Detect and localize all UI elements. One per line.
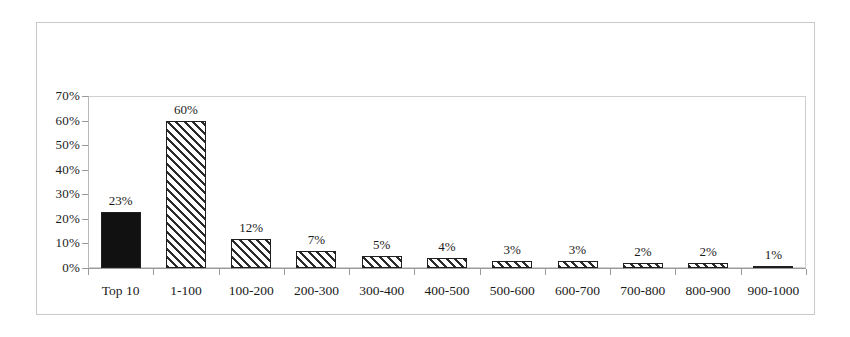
bar-value-label: 1% [765, 248, 782, 261]
bar-slot: 23% [88, 96, 153, 268]
y-axis-tick-label: 0% [30, 261, 80, 274]
bar-slot: 2% [610, 96, 675, 268]
chart-figure: 0%10%20%30%40%50%60%70% 23%60%12%7%5%4%3… [0, 0, 850, 337]
x-axis-tick [349, 269, 350, 275]
x-axis-tick [153, 269, 154, 275]
y-axis-tick-label-text: 0% [36, 261, 80, 274]
bar[interactable] [296, 251, 336, 268]
x-axis-tick [545, 269, 546, 275]
bar-slot: 3% [480, 96, 545, 268]
bar-value-label: 7% [308, 233, 325, 246]
bar[interactable] [166, 121, 206, 268]
x-axis-tick [88, 269, 89, 275]
bar-slot: 12% [219, 96, 284, 268]
bar[interactable] [492, 261, 532, 268]
bar-slot: 4% [414, 96, 479, 268]
bar-value-label: 5% [373, 238, 390, 251]
bar-slot: 7% [284, 96, 349, 268]
bar-value-label: 2% [699, 245, 716, 258]
x-axis-tick [806, 269, 807, 275]
bar-value-label: 3% [504, 243, 521, 256]
x-axis-category-label: 300-400 [349, 284, 414, 298]
bar-value-label: 3% [569, 243, 586, 256]
y-axis-tick-label-text: 70% [36, 89, 80, 102]
x-axis-category-label: 400-500 [414, 284, 479, 298]
x-axis-tick [480, 269, 481, 275]
bar[interactable] [753, 266, 793, 268]
y-axis-tick-label: 20% [30, 212, 80, 225]
x-axis-tick [675, 269, 676, 275]
bar[interactable] [362, 256, 402, 268]
y-axis-tick-label: 40% [30, 163, 80, 176]
bar-value-label: 2% [634, 245, 651, 258]
bar[interactable] [688, 263, 728, 268]
y-axis-tick-label-text: 60% [36, 114, 80, 127]
bar-value-label: 60% [174, 103, 198, 116]
bar-value-label: 23% [109, 194, 133, 207]
bar[interactable] [101, 212, 141, 269]
y-axis-tick-label: 70% [30, 89, 80, 102]
bar-value-label: 4% [438, 240, 455, 253]
bar-slot: 60% [153, 96, 218, 268]
y-axis-tick-label-text: 30% [36, 187, 80, 200]
x-axis-category-label: Top 10 [88, 284, 153, 298]
bar-slot: 2% [675, 96, 740, 268]
y-axis-tick-label-text: 20% [36, 212, 80, 225]
x-axis-category-label: 600-700 [545, 284, 610, 298]
y-axis-tick-label: 30% [30, 187, 80, 200]
bars-layer: 23%60%12%7%5%4%3%3%2%2%1% [88, 96, 806, 268]
x-axis-tick [284, 269, 285, 275]
y-axis-tick-label-text: 50% [36, 138, 80, 151]
x-axis-category-label: 800-900 [675, 284, 740, 298]
bar[interactable] [623, 263, 663, 268]
x-axis-category-label: 700-800 [610, 284, 675, 298]
x-axis-tick [219, 269, 220, 275]
x-axis-tick [414, 269, 415, 275]
bar-value-label: 12% [239, 221, 263, 234]
y-axis-tick-label-text: 40% [36, 163, 80, 176]
x-axis-category-label: 900-1000 [741, 284, 806, 298]
y-axis-tick-label: 60% [30, 114, 80, 127]
bar[interactable] [231, 239, 271, 268]
x-axis-tick [610, 269, 611, 275]
x-axis-line [88, 268, 806, 269]
bar[interactable] [558, 261, 598, 268]
x-axis-category-label: 1-100 [153, 284, 218, 298]
x-axis-category-label: 100-200 [219, 284, 284, 298]
bar-slot: 1% [741, 96, 806, 268]
y-axis-tick-label-text: 10% [36, 236, 80, 249]
x-axis-category-label: 500-600 [480, 284, 545, 298]
y-axis-tick-label: 10% [30, 236, 80, 249]
bar[interactable] [427, 258, 467, 268]
x-axis-category-label: 200-300 [284, 284, 349, 298]
bar-slot: 3% [545, 96, 610, 268]
x-axis-tick [741, 269, 742, 275]
bar-slot: 5% [349, 96, 414, 268]
y-axis-tick-label: 50% [30, 138, 80, 151]
